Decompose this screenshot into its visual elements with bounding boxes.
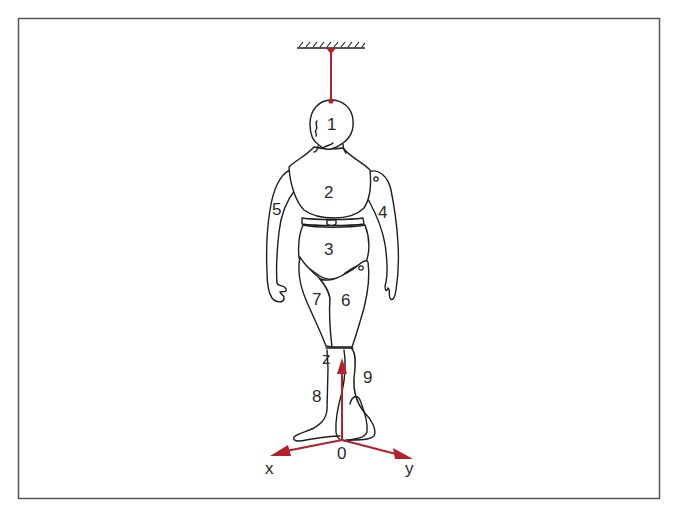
axis-label-origin: 0	[337, 444, 346, 463]
axis-label-x: x	[265, 459, 274, 478]
segment-label-3: 3	[324, 240, 333, 259]
segment-label-8: 8	[312, 387, 321, 406]
segment-label-9: 9	[363, 368, 372, 387]
axis-label-y: y	[405, 459, 414, 478]
segment-label-2: 2	[324, 183, 333, 202]
segment-label-4: 4	[378, 203, 387, 222]
cord-attachment-point	[328, 98, 333, 103]
segment-label-1: 1	[327, 115, 336, 134]
axis-label-z: z	[322, 349, 331, 368]
mannequin-diagram: 1 2 3 4 5 6 7 8 9 z 0 x y	[0, 0, 676, 510]
segment-label-6: 6	[341, 291, 350, 310]
segment-label-5: 5	[272, 200, 281, 219]
segment-label-7: 7	[312, 290, 321, 309]
